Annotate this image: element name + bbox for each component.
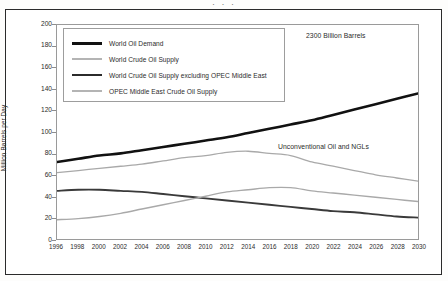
x-axis-tick-labels: 1996199820002002200420062008201020122014…: [56, 243, 419, 257]
x-tick-label: 2000: [92, 243, 106, 251]
x-tick-label: 2022: [327, 243, 341, 251]
y-tick-label: 40: [26, 194, 52, 201]
y-tick-label: 120: [26, 107, 52, 114]
clipped-page-header: · · ·: [0, 0, 448, 7]
series-line-1: [57, 151, 418, 181]
line-chart: Million Barrels per Day 0204060801001201…: [6, 10, 443, 276]
annotation-unconventional: Unconventional Oil and NGLs: [278, 143, 369, 150]
y-axis-tick-labels: 020406080100120140160180200: [20, 24, 52, 240]
x-tick-label: 1998: [70, 243, 84, 251]
x-tick-label: 2016: [263, 243, 277, 251]
y-tick-label: 100: [26, 129, 52, 136]
legend-item-world-crude-excluding-opec-me: World Crude Oil Supply excluding OPEC Mi…: [72, 67, 284, 83]
x-tick-label: 2018: [284, 243, 298, 251]
x-tick-label: 2024: [348, 243, 362, 251]
y-tick-label: 20: [26, 215, 52, 222]
legend-label-world-oil-demand: World Oil Demand: [109, 40, 164, 47]
x-tick-label: 2002: [113, 243, 127, 251]
x-tick-label: 2030: [412, 243, 426, 251]
x-tick-label: 2004: [134, 243, 148, 251]
y-tick-label: 200: [26, 21, 52, 28]
legend-swatch-opec-me-crude-oil-supply: [72, 90, 102, 92]
legend-item-world-oil-demand: World Oil Demand: [72, 35, 284, 51]
y-tick-mark: [52, 240, 56, 241]
legend-label-world-crude-oil-supply: World Crude Oil Supply: [109, 56, 179, 63]
y-tick-label: 80: [26, 150, 52, 157]
legend-item-opec-me-crude-oil-supply: OPEC Middle East Crude Oil Supply: [72, 83, 284, 99]
x-tick-label: 1996: [49, 243, 63, 251]
x-tick-label: 2012: [220, 243, 234, 251]
x-tick-label: 2026: [369, 243, 383, 251]
legend-swatch-world-crude-oil-supply: [72, 58, 102, 60]
y-tick-label: 60: [26, 172, 52, 179]
series-line-3: [57, 187, 418, 219]
legend-label-world-crude-excluding-opec-me: World Crude Oil Supply excluding OPEC Mi…: [109, 72, 267, 79]
scanned-page: · · · Million Barrels per Day 0204060801…: [0, 0, 448, 281]
y-tick-label: 180: [26, 42, 52, 49]
annotation-reserves: 2300 Billion Barrels: [306, 32, 366, 39]
y-axis-title: Million Barrels per Day: [0, 78, 7, 198]
figure-frame: Million Barrels per Day 0204060801001201…: [5, 9, 442, 275]
legend-label-opec-me-crude-oil-supply: OPEC Middle East Crude Oil Supply: [109, 88, 217, 95]
series-line-2: [57, 190, 418, 218]
legend-swatch-world-crude-excluding-opec-me: [72, 74, 102, 76]
x-tick-label: 2006: [156, 243, 170, 251]
y-tick-label: 140: [26, 86, 52, 93]
y-tick-label: 160: [26, 64, 52, 71]
legend-swatch-world-oil-demand: [72, 42, 102, 45]
x-tick-label: 2008: [177, 243, 191, 251]
x-tick-label: 2010: [198, 243, 212, 251]
x-tick-label: 2020: [305, 243, 319, 251]
legend-item-world-crude-oil-supply: World Crude Oil Supply: [72, 51, 284, 67]
x-tick-label: 2014: [241, 243, 255, 251]
chart-legend: World Oil Demand World Crude Oil Supply …: [63, 28, 285, 102]
x-tick-label: 2028: [391, 243, 405, 251]
